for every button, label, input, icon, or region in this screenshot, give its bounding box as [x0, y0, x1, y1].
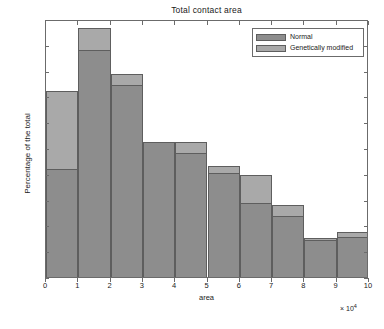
- y-tick-mark: [364, 123, 368, 124]
- x-tick-mark: [77, 21, 78, 25]
- x-tick-mark: [303, 21, 304, 25]
- y-tick-mark: [45, 149, 49, 150]
- x-exponent-base: × 10: [340, 305, 354, 312]
- y-tick-mark: [364, 226, 368, 227]
- bar-group: [240, 21, 272, 277]
- y-tick-mark: [45, 252, 49, 253]
- bar-normal: [272, 216, 304, 277]
- y-tick-mark: [45, 97, 49, 98]
- bar-normal: [240, 203, 272, 277]
- y-tick-mark: [45, 201, 49, 202]
- x-tick-mark: [336, 278, 337, 282]
- y-tick-mark: [45, 175, 49, 176]
- y-tick-mark: [45, 226, 49, 227]
- x-tick-mark: [368, 21, 369, 25]
- x-tick-label: 4: [159, 281, 189, 290]
- x-tick-label: 6: [224, 281, 254, 290]
- x-tick-mark: [174, 21, 175, 25]
- x-tick-label: 8: [288, 281, 318, 290]
- y-tick-mark: [45, 46, 49, 47]
- y-axis-label: Percentage of the total: [23, 64, 32, 244]
- bar-group: [78, 21, 110, 277]
- x-tick-label: 10: [353, 281, 383, 290]
- legend-label-normal: Normal: [290, 33, 313, 41]
- legend-item-genetically-modified: Genetically modified: [256, 43, 360, 53]
- x-tick-label: 2: [95, 281, 125, 290]
- x-tick-mark: [336, 21, 337, 25]
- y-tick-mark: [364, 175, 368, 176]
- x-tick-label: 7: [256, 281, 286, 290]
- bar-normal: [143, 142, 175, 277]
- x-tick-label: 5: [192, 281, 222, 290]
- bar-normal: [208, 173, 240, 277]
- x-tick-mark: [110, 278, 111, 282]
- bar-normal: [337, 237, 367, 277]
- x-tick-mark: [45, 278, 46, 282]
- legend[interactable]: Normal Genetically modified: [252, 28, 364, 57]
- bar-group: [304, 21, 336, 277]
- bar-group: [111, 21, 143, 277]
- bar-group: [46, 21, 78, 277]
- x-tick-mark: [239, 278, 240, 282]
- bar-normal: [78, 50, 110, 277]
- legend-swatch-genetically-modified: [256, 45, 286, 52]
- bar-normal: [111, 85, 143, 277]
- y-tick-mark: [364, 149, 368, 150]
- x-axis-exponent: × 104: [340, 303, 357, 312]
- y-tick-mark: [364, 201, 368, 202]
- x-tick-mark: [207, 21, 208, 25]
- legend-item-normal: Normal: [256, 32, 360, 42]
- x-exponent-power: 4: [354, 303, 357, 309]
- x-tick-mark: [271, 21, 272, 25]
- x-tick-label: 9: [321, 281, 351, 290]
- x-tick-label: 0: [30, 281, 60, 290]
- y-tick-mark: [364, 46, 368, 47]
- y-tick-mark: [364, 72, 368, 73]
- y-tick-mark: [45, 123, 49, 124]
- bar-group: [337, 21, 367, 277]
- bar-normal: [175, 153, 207, 277]
- bar-group: [208, 21, 240, 277]
- x-tick-label: 3: [127, 281, 157, 290]
- x-tick-mark: [77, 278, 78, 282]
- x-tick-mark: [303, 278, 304, 282]
- bar-group: [272, 21, 304, 277]
- legend-swatch-normal: [256, 34, 286, 41]
- bar-normal: [304, 240, 336, 277]
- y-tick-mark: [45, 72, 49, 73]
- chart-title: Total contact area: [45, 5, 368, 15]
- bar-normal: [46, 169, 78, 277]
- figure-canvas: Total contact area 00.020.040.060.080.10…: [0, 0, 384, 329]
- x-tick-mark: [142, 21, 143, 25]
- bars-layer: [46, 21, 367, 277]
- x-tick-mark: [368, 278, 369, 282]
- y-tick-mark: [364, 252, 368, 253]
- x-tick-mark: [239, 21, 240, 25]
- x-tick-mark: [174, 278, 175, 282]
- bar-group: [143, 21, 175, 277]
- x-tick-mark: [45, 21, 46, 25]
- y-tick-mark: [364, 97, 368, 98]
- x-tick-mark: [271, 278, 272, 282]
- bar-group: [175, 21, 207, 277]
- x-axis-label: area: [45, 293, 368, 302]
- legend-label-genetically-modified: Genetically modified: [290, 44, 353, 52]
- x-tick-mark: [142, 278, 143, 282]
- x-tick-mark: [110, 21, 111, 25]
- plot-area: [45, 20, 368, 278]
- x-tick-mark: [207, 278, 208, 282]
- x-tick-label: 1: [62, 281, 92, 290]
